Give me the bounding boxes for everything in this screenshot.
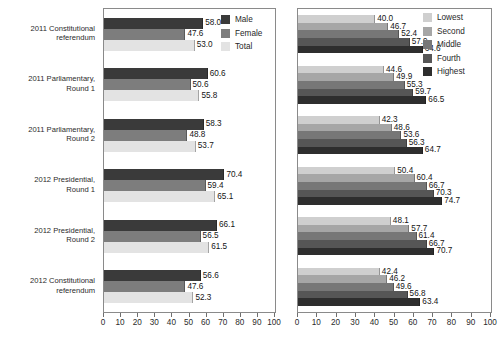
bar-group: 56.647.652.3 [104,262,275,313]
legend-item-female[interactable]: Female [221,27,262,41]
axis-tick-label: 10 [116,318,125,327]
axis-tick [316,313,317,317]
bar-highest [298,197,442,205]
bar-middle [298,30,399,38]
legend-label: Fourth [437,54,461,63]
legend-swatch-male [221,15,230,24]
bar-fourth [298,38,410,46]
bar-highest [298,147,423,155]
bar-group: 58.348.853.7 [104,110,275,161]
bar-middle [298,131,401,139]
legend-swatch-fourth [423,54,432,63]
bar-second [298,23,388,31]
bar-group: 50.460.466.770.374.7 [298,161,491,212]
legend-item-middle[interactable]: Middle [423,38,465,52]
bar-total [104,90,199,101]
bar-total [104,292,193,303]
category-label: 2012 Constitutional referendum [0,276,95,295]
axis-tick [206,313,207,317]
bar-female [104,79,191,90]
bar-value-label: 53.7 [196,142,214,150]
bar-group: 60.650.655.8 [104,60,275,111]
legend-item-total[interactable]: Total [221,40,262,54]
legend-label: Male [235,15,253,24]
bar-fourth [298,240,427,248]
axis-tick [274,313,275,317]
x-axis-by-sex: 0102030405060708090100 [103,313,276,331]
bar-lowest [298,167,395,175]
bar-female [104,130,187,141]
legend-label: Lowest [437,13,463,22]
x-axis-by-wealth-quintile: 0102030405060708090100 [297,313,492,331]
axis-tick-label: 50 [184,318,193,327]
bar-group: 48.157.761.466.770.7 [298,211,491,262]
legend-item-lowest[interactable]: Lowest [423,11,465,25]
bar-lowest [298,217,391,225]
bar-second [298,124,392,132]
legend-item-fourth[interactable]: Fourth [423,52,465,66]
legend-item-second[interactable]: Second [423,25,465,39]
axis-tick [336,313,337,317]
bar-fourth [298,89,413,97]
bar-female [104,281,185,292]
category-label-column: 2011 Constitutional referendum2011 Parli… [0,8,99,313]
legend-label: Highest [437,67,465,76]
bar-highest [298,46,423,54]
legend-item-highest[interactable]: Highest [423,65,465,79]
axis-tick [394,313,395,317]
axis-tick-label: 20 [133,318,142,327]
bar-value-label: 66.1 [217,221,235,229]
bar-lowest [298,15,375,23]
axis-tick [413,313,414,317]
axis-tick [355,313,356,317]
axis-tick-label: 20 [331,318,340,327]
axis-tick [374,313,375,317]
axis-tick [240,313,241,317]
bar-group: 42.348.653.656.364.7 [298,110,491,161]
axis-tick-label: 30 [150,318,159,327]
axis-tick-label: 70 [428,318,437,327]
bar-lowest [298,66,384,74]
bar-male [104,169,224,180]
legend-swatch-highest [423,67,432,76]
bar-fourth [298,190,434,198]
bar-value-label: 65.1 [215,192,233,200]
bar-value-label: 55.8 [199,91,217,99]
bar-highest [298,248,434,256]
bar-middle [298,232,417,240]
axis-tick [471,313,472,317]
bar-group: 70.459.465.1 [104,161,275,212]
bar-value-label: 74.7 [442,197,460,205]
bar-group: 66.156.561.5 [104,211,275,262]
bar-value-label: 58.0 [203,19,221,27]
category-label: 2011 Parliamentary, Round 1 [0,74,95,93]
legend-swatch-second [423,27,432,36]
bar-male [104,119,204,130]
bar-fourth [298,139,407,147]
axis-tick-label: 90 [252,318,261,327]
axis-tick-label: 40 [370,318,379,327]
axis-tick-label: 60 [201,318,210,327]
axis-tick [223,313,224,317]
axis-tick-label: 0 [101,318,106,327]
category-label: 2012 Presidential, Round 2 [0,226,95,245]
bar-middle [298,81,405,89]
bar-total [104,141,196,152]
axis-tick-label: 70 [218,318,227,327]
category-label: 2011 Parliamentary, Round 2 [0,125,95,144]
axis-tick-label: 40 [167,318,176,327]
legend-by-sex: MaleFemaleTotal [221,13,262,54]
bar-total [104,40,195,51]
legend-label: Female [235,29,262,38]
plot-area-by-sex: 58.047.653.060.650.655.858.348.853.770.4… [103,8,276,313]
bar-value-label: 63.4 [420,298,438,306]
bar-female [104,29,185,40]
bar-value-label: 48.1 [391,217,409,225]
legend-item-male[interactable]: Male [221,13,262,27]
bar-fourth [298,291,408,299]
legend-label: Second [437,27,465,36]
axis-tick [103,313,104,317]
bar-value-label: 56.6 [201,271,219,279]
category-label: 2012 Presidential, Round 1 [0,175,95,194]
axis-tick-label: 90 [466,318,475,327]
